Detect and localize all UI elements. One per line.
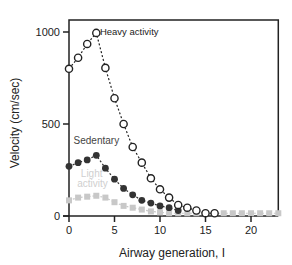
- x-tick-label: 20: [245, 224, 257, 236]
- data-point-open-circle: [120, 120, 127, 127]
- data-point-open-circle: [102, 64, 109, 71]
- data-point-open-circle: [184, 204, 191, 211]
- data-point-filled-circle: [93, 152, 100, 159]
- data-point-square: [257, 210, 263, 216]
- data-point-open-circle: [193, 207, 200, 214]
- data-point-square: [139, 207, 145, 213]
- data-point-filled-circle: [138, 197, 145, 204]
- data-point-filled-circle: [75, 159, 82, 166]
- data-point-square: [66, 197, 72, 203]
- data-point-filled-circle: [157, 202, 164, 209]
- data-point-square: [93, 193, 99, 199]
- y-tick-label: 1000: [36, 26, 60, 38]
- series-line: [69, 196, 278, 213]
- data-point-square: [157, 209, 163, 215]
- data-point-filled-circle: [148, 200, 155, 207]
- x-tick-label: 5: [111, 224, 117, 236]
- data-point-square: [121, 203, 127, 209]
- series-light-activity: [66, 193, 281, 216]
- data-point-open-circle: [93, 29, 100, 36]
- velocity-chart: 0500100005101520 Heavy activitySedentary…: [0, 0, 292, 265]
- data-point-open-circle: [211, 210, 218, 217]
- x-tick-label: 0: [66, 224, 72, 236]
- data-point-square: [248, 210, 254, 216]
- data-point-square: [230, 210, 236, 216]
- y-tick-label: 500: [42, 118, 60, 130]
- data-point-square: [166, 210, 172, 216]
- data-point-open-circle: [156, 186, 163, 193]
- series-labels: Heavy activitySedentaryLightactivity: [74, 26, 159, 189]
- data-point-open-circle: [202, 210, 209, 217]
- data-point-open-circle: [138, 159, 145, 166]
- data-point-open-circle: [129, 143, 136, 150]
- data-point-open-circle: [147, 175, 154, 182]
- data-point-filled-circle: [166, 204, 173, 211]
- y-axis-label: Velocity (cm/sec): [8, 78, 22, 169]
- data-point-square: [75, 195, 81, 201]
- data-point-open-circle: [175, 201, 182, 208]
- data-point-square: [239, 210, 245, 216]
- data-point-filled-circle: [120, 185, 127, 192]
- data-point-filled-circle: [111, 176, 118, 183]
- data-point-open-circle: [166, 194, 173, 201]
- series-annotation: Sedentary: [74, 135, 120, 146]
- x-tick-label: 15: [199, 224, 211, 236]
- data-point-open-circle: [84, 40, 91, 47]
- data-point-square: [130, 205, 136, 211]
- data-point-square: [275, 210, 281, 216]
- data-point-square: [221, 210, 227, 216]
- data-point-open-circle: [111, 95, 118, 102]
- data-point-square: [84, 194, 90, 200]
- series-annotation: activity: [77, 178, 108, 189]
- data-point-square: [102, 195, 108, 201]
- data-point-filled-circle: [129, 191, 136, 198]
- data-point-square: [266, 210, 272, 216]
- data-point-open-circle: [65, 65, 72, 72]
- data-point-filled-circle: [66, 163, 73, 170]
- data-point-filled-circle: [84, 156, 91, 163]
- x-tick-label: 10: [154, 224, 166, 236]
- series-annotation: Heavy activity: [100, 26, 159, 37]
- data-point-open-circle: [75, 54, 82, 61]
- data-point-filled-circle: [102, 165, 109, 172]
- x-axis-label: Airway generation, I: [119, 246, 225, 260]
- data-point-square: [112, 199, 118, 205]
- data-point-square: [148, 208, 154, 214]
- y-tick-label: 0: [54, 210, 60, 222]
